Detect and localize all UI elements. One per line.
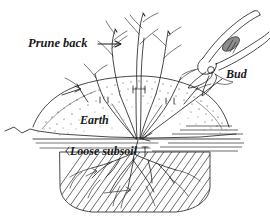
- loose-subsoil-label: Loose subsoil: [69, 144, 138, 158]
- prune-back-label: Prune back: [28, 36, 88, 50]
- bud-label: Bud: [225, 67, 248, 81]
- prune-back-arrow: [98, 41, 121, 47]
- planting-diagram: Prune back Earth Loose subsoil Bud: [0, 0, 270, 224]
- earth-mound-arrow: [62, 86, 81, 95]
- earth-label: Earth: [79, 113, 109, 127]
- plant-crown: [104, 88, 170, 139]
- cane-collars: [100, 86, 174, 104]
- bud-leader-line: [142, 79, 222, 141]
- pruned-canes: [65, 13, 211, 104]
- diagram-canvas: Prune back Earth Loose subsoil Bud: [0, 0, 270, 224]
- subsoil-label-tick-right: [142, 147, 148, 156]
- bud-detail-inset: [182, 11, 270, 96]
- right-ground-hatching: [152, 126, 244, 151]
